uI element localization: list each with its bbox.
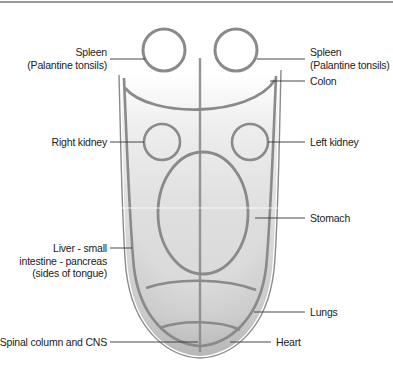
label-stomach: Stomach xyxy=(310,212,350,225)
label-spleen-left-line1: Spleen xyxy=(27,46,107,59)
label-liver: Liver - small intestine - pancreas (side… xyxy=(19,242,107,280)
label-left-kidney: Left kidney xyxy=(310,136,359,149)
label-colon: Colon xyxy=(310,75,336,88)
label-spleen-left: Spleen (Palantine tonsils) xyxy=(27,46,107,71)
label-liver-line2: intestine - pancreas xyxy=(19,255,107,268)
spleen-left-circle xyxy=(143,29,185,71)
label-spleen-right-line1: Spleen xyxy=(310,46,390,59)
label-spleen-right-line2: (Palantine tonsils) xyxy=(310,59,390,72)
label-spleen-left-line2: (Palantine tonsils) xyxy=(27,59,107,72)
label-liver-line3: (sides of tongue) xyxy=(19,267,107,280)
label-spleen-right: Spleen (Palantine tonsils) xyxy=(310,46,390,71)
spleen-right-circle xyxy=(215,29,257,71)
label-right-kidney: Right kidney xyxy=(52,136,107,149)
label-liver-line1: Liver - small xyxy=(19,242,107,255)
label-lungs: Lungs xyxy=(310,306,338,319)
label-spinal-column: Spinal column and CNS xyxy=(0,336,107,349)
label-heart: Heart xyxy=(276,336,301,349)
